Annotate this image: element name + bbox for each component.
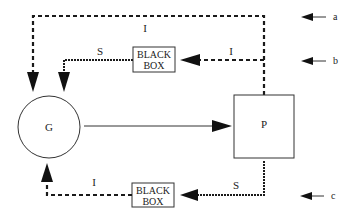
black-box-top: BLACK BOX (133, 47, 175, 72)
marker-b-label: b (333, 55, 338, 66)
marker-a: a (301, 11, 338, 22)
arrowhead-icon (58, 72, 70, 92)
node-p: P (234, 95, 294, 158)
black-box-top-line2: BOX (143, 60, 165, 71)
label-p-to-bottom-box: S (233, 179, 239, 191)
edge-p-to-top-box: I (180, 45, 264, 66)
label-top-box-to-g: S (97, 45, 103, 57)
arrowhead-icon (41, 163, 53, 182)
edge-g-to-p (84, 120, 232, 132)
edge-top-box-to-g: S (58, 45, 133, 92)
label-top-loop: I (143, 22, 147, 34)
edge-bottom-box-to-g: I (41, 163, 132, 195)
marker-b: b (301, 55, 338, 66)
marker-a-label: a (333, 11, 338, 22)
node-g-label: G (45, 121, 53, 133)
diagram-canvas: I I BLACK BOX S G P S BLACK (0, 0, 349, 217)
marker-c-label: c (331, 190, 336, 201)
arrowhead-icon (27, 72, 39, 92)
label-p-to-top-box: I (229, 45, 233, 57)
marker-c: c (300, 190, 336, 201)
arrow-left-icon (300, 192, 312, 200)
label-bottom-box-to-g: I (92, 176, 96, 188)
arrow-left-icon (301, 57, 313, 65)
arrow-left-icon (301, 13, 313, 21)
arrowhead-icon (180, 54, 200, 66)
black-box-bottom-line1: BLACK (136, 185, 171, 196)
black-box-bottom-line2: BOX (142, 196, 164, 207)
black-box-bottom: BLACK BOX (132, 183, 174, 207)
node-p-label: P (261, 118, 267, 130)
arrowhead-icon (212, 120, 232, 132)
arrowhead-icon (180, 189, 198, 201)
edge-p-to-bottom-box: S (180, 161, 264, 201)
node-g: G (18, 96, 80, 158)
black-box-top-line1: BLACK (137, 49, 172, 60)
